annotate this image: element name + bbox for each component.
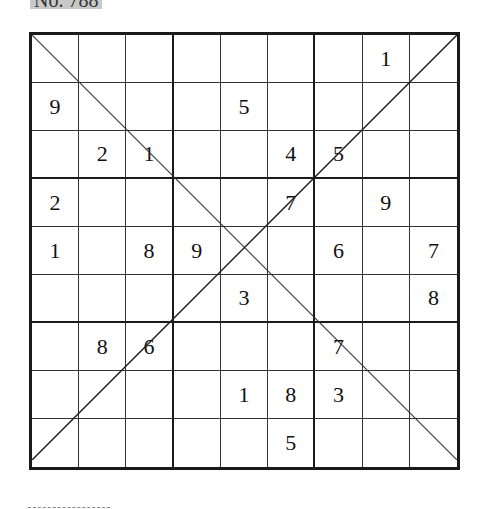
cell-r6c3[interactable] <box>126 275 173 323</box>
cell-r1c1[interactable] <box>32 35 79 83</box>
cell-r2c4[interactable] <box>174 83 221 131</box>
cell-r3c3[interactable]: 1 <box>126 131 173 179</box>
cell-r5c4[interactable]: 9 <box>174 227 221 275</box>
cell-r7c2[interactable]: 8 <box>79 323 126 371</box>
cell-r7c1[interactable] <box>32 323 79 371</box>
cell-r2c7[interactable] <box>315 83 362 131</box>
cell-r9c5[interactable] <box>221 419 268 467</box>
cell-r5c9[interactable]: 7 <box>410 227 457 275</box>
cell-r9c2[interactable] <box>79 419 126 467</box>
cell-r1c4[interactable] <box>174 35 221 83</box>
cell-r8c8[interactable] <box>363 371 410 419</box>
cell-r9c8[interactable] <box>363 419 410 467</box>
cell-r2c3[interactable] <box>126 83 173 131</box>
sudoku-board: 195214527918967388671835 <box>29 32 460 470</box>
cell-r5c8[interactable] <box>363 227 410 275</box>
cell-r3c9[interactable] <box>410 131 457 179</box>
cell-r9c1[interactable] <box>32 419 79 467</box>
cell-r2c2[interactable] <box>79 83 126 131</box>
cell-r1c2[interactable] <box>79 35 126 83</box>
cell-r8c4[interactable] <box>174 371 221 419</box>
cell-r8c3[interactable] <box>126 371 173 419</box>
cell-r4c8[interactable]: 9 <box>363 179 410 227</box>
footer-divider <box>28 507 110 508</box>
cell-r8c6[interactable]: 8 <box>268 371 315 419</box>
cell-r7c9[interactable] <box>410 323 457 371</box>
cell-r7c3[interactable]: 6 <box>126 323 173 371</box>
cell-r3c2[interactable]: 2 <box>79 131 126 179</box>
cell-r2c5[interactable]: 5 <box>221 83 268 131</box>
cell-r8c1[interactable] <box>32 371 79 419</box>
cell-r6c5[interactable]: 3 <box>221 275 268 323</box>
cell-r1c6[interactable] <box>268 35 315 83</box>
cell-r8c9[interactable] <box>410 371 457 419</box>
cell-r5c1[interactable]: 1 <box>32 227 79 275</box>
cell-r8c5[interactable]: 1 <box>221 371 268 419</box>
cell-r7c5[interactable] <box>221 323 268 371</box>
cell-r6c6[interactable] <box>268 275 315 323</box>
cell-r4c7[interactable] <box>315 179 362 227</box>
cell-r9c4[interactable] <box>174 419 221 467</box>
cell-r4c9[interactable] <box>410 179 457 227</box>
cell-r8c2[interactable] <box>79 371 126 419</box>
cell-r4c1[interactable]: 2 <box>32 179 79 227</box>
cell-r3c1[interactable] <box>32 131 79 179</box>
cell-r5c6[interactable] <box>268 227 315 275</box>
cell-r1c3[interactable] <box>126 35 173 83</box>
cell-r3c4[interactable] <box>174 131 221 179</box>
cell-r3c6[interactable]: 4 <box>268 131 315 179</box>
cell-r2c9[interactable] <box>410 83 457 131</box>
cell-r7c6[interactable] <box>268 323 315 371</box>
cell-r4c2[interactable] <box>79 179 126 227</box>
cell-r6c9[interactable]: 8 <box>410 275 457 323</box>
cell-r7c4[interactable] <box>174 323 221 371</box>
cell-r6c4[interactable] <box>174 275 221 323</box>
cell-r5c2[interactable] <box>79 227 126 275</box>
cell-r7c8[interactable] <box>363 323 410 371</box>
cell-r2c8[interactable] <box>363 83 410 131</box>
cell-r6c7[interactable] <box>315 275 362 323</box>
cell-r5c7[interactable]: 6 <box>315 227 362 275</box>
cell-r2c6[interactable] <box>268 83 315 131</box>
cell-r3c8[interactable] <box>363 131 410 179</box>
cell-r4c3[interactable] <box>126 179 173 227</box>
cell-r5c3[interactable]: 8 <box>126 227 173 275</box>
cell-r2c1[interactable]: 9 <box>32 83 79 131</box>
cell-r4c4[interactable] <box>174 179 221 227</box>
cell-r4c6[interactable]: 7 <box>268 179 315 227</box>
sudoku-grid: 195214527918967388671835 <box>32 35 457 467</box>
cell-r6c2[interactable] <box>79 275 126 323</box>
cell-r9c7[interactable] <box>315 419 362 467</box>
cell-r1c9[interactable] <box>410 35 457 83</box>
cell-r9c6[interactable]: 5 <box>268 419 315 467</box>
cell-r1c5[interactable] <box>221 35 268 83</box>
cell-r9c3[interactable] <box>126 419 173 467</box>
cell-r8c7[interactable]: 3 <box>315 371 362 419</box>
cell-r1c8[interactable]: 1 <box>363 35 410 83</box>
cell-r9c9[interactable] <box>410 419 457 467</box>
cell-r6c8[interactable] <box>363 275 410 323</box>
cell-r4c5[interactable] <box>221 179 268 227</box>
cell-r3c7[interactable]: 5 <box>315 131 362 179</box>
cell-r3c5[interactable] <box>221 131 268 179</box>
cell-r7c7[interactable]: 7 <box>315 323 362 371</box>
puzzle-number-label: No. 788 <box>30 0 102 9</box>
cell-r6c1[interactable] <box>32 275 79 323</box>
cell-r1c7[interactable] <box>315 35 362 83</box>
cell-r5c5[interactable] <box>221 227 268 275</box>
